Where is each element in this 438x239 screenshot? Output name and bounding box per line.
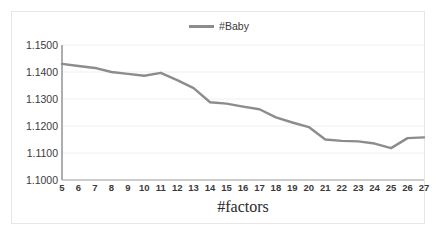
x-axis-tick-label: 10 [139, 183, 150, 193]
x-axis-title: #factors [62, 199, 424, 215]
x-axis-tick-label: 27 [419, 183, 430, 193]
x-axis-tick-label: 12 [172, 183, 183, 193]
x-axis-tick-label: 17 [254, 183, 265, 193]
x-axis-tick-label: 25 [386, 183, 397, 193]
legend-label: #Baby [219, 21, 249, 32]
x-axis-tick-label: 22 [336, 183, 347, 193]
x-axis-tick-label: 18 [271, 183, 282, 193]
x-axis-tick-label: 23 [353, 183, 364, 193]
x-axis-tick-label: 20 [304, 183, 315, 193]
x-axis-tick-label: 16 [238, 183, 249, 193]
x-axis-tick-label: 6 [76, 183, 81, 193]
x-axis-tick-label: 19 [287, 183, 298, 193]
y-axis-tick-label: 1.1100 [6, 148, 58, 159]
x-axis-tick-label: 7 [92, 183, 97, 193]
y-axis-tick-label: 1.1500 [6, 40, 58, 51]
x-axis-tick-label: 26 [402, 183, 413, 193]
x-axis-tick-label: 8 [109, 183, 114, 193]
y-axis-tick-label: 1.1300 [6, 94, 58, 105]
x-axis-tick-label: 9 [125, 183, 130, 193]
x-axis-tick-label: 15 [221, 183, 232, 193]
legend-line-swatch [189, 25, 214, 28]
x-axis-tick-labels: 5678910111213141516171819202122232425262… [62, 183, 424, 197]
chart-figure: #Baby 1.10001.11001.12001.13001.14001.15… [0, 0, 438, 239]
y-axis-tick-label: 1.1200 [6, 121, 58, 132]
x-axis-tick-label: 14 [205, 183, 216, 193]
chart-legend: #Baby [0, 18, 438, 34]
plot-area [62, 45, 424, 180]
x-axis-tick-label: 11 [156, 183, 166, 193]
data-series-line-baby [62, 64, 424, 148]
y-axis-tick-label: 1.1000 [6, 175, 58, 186]
x-axis-tick-label: 21 [320, 183, 331, 193]
plot-svg [62, 45, 424, 180]
y-axis-tick-labels: 1.10001.11001.12001.13001.14001.1500 [4, 45, 58, 180]
y-axis-tick-label: 1.1400 [6, 67, 58, 78]
x-axis-tick-label: 5 [59, 183, 64, 193]
x-axis-tick-label: 13 [188, 183, 199, 193]
x-axis-tick-label: 24 [369, 183, 380, 193]
gridlines [62, 45, 424, 153]
